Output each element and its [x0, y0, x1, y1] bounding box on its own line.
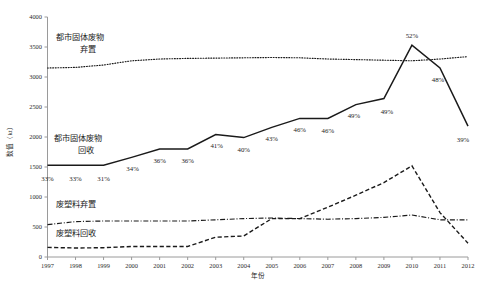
- x-axis-ticks: 1997199819992000200120022003200420052006…: [41, 257, 474, 269]
- y-tick-label: 3500: [29, 43, 42, 50]
- y-axis-title: 数值（kt）: [5, 123, 14, 156]
- series-inline-labels: 都市固体废物 弃置 都市固体废物 回收 废塑料弃置 废塑料回收: [54, 32, 104, 238]
- y-tick-label: 3000: [29, 73, 42, 80]
- x-tick-label: 2004: [237, 262, 251, 269]
- recycling-rate-label: 31%: [97, 175, 110, 182]
- y-tick-label: 2500: [29, 103, 42, 110]
- x-tick-label: 2006: [293, 262, 306, 269]
- series-label-msw-dispose-line2: 弃置: [80, 44, 96, 54]
- series-line-plastic-recycle: [48, 166, 469, 248]
- x-tick-label: 2000: [125, 262, 138, 269]
- y-tick-label: 500: [32, 223, 42, 230]
- recycling-rate-label: 36%: [153, 157, 166, 164]
- y-tick-label: 2000: [29, 133, 42, 140]
- x-tick-label: 2002: [181, 262, 194, 269]
- x-tick-label: 2005: [265, 262, 278, 269]
- x-tick-label: 1997: [41, 262, 55, 269]
- series-line-plastic-dispose: [48, 215, 469, 225]
- x-tick-label: 2008: [349, 262, 362, 269]
- recycling-rate-label: 49%: [381, 108, 394, 115]
- series-label-msw-recycle-line1: 都市固体废物: [54, 133, 102, 143]
- chart-axes: [48, 17, 469, 257]
- recycling-rate-label: 46%: [322, 127, 335, 134]
- x-tick-label: 2003: [209, 262, 222, 269]
- y-tick-label: 1000: [29, 193, 42, 200]
- x-tick-label: 2001: [153, 262, 166, 269]
- series-label-plastic-recycle: 废塑料回收: [56, 228, 96, 238]
- recycling-rate-label: 48%: [432, 76, 445, 83]
- recycling-rate-labels: 33%33%31%34%36%36%41%40%43%46%46%49%49%5…: [41, 32, 469, 182]
- x-tick-label: 2009: [378, 262, 391, 269]
- series-line-msw-recycle: [48, 45, 469, 165]
- recycling-rate-label: 41%: [210, 142, 223, 149]
- recycling-rate-label: 36%: [181, 157, 194, 164]
- recycling-rate-label: 33%: [69, 175, 82, 182]
- chart-container: 05001000150020002500300035004000 1997199…: [0, 0, 480, 292]
- y-tick-label: 0: [39, 253, 42, 260]
- y-tick-label: 1500: [29, 163, 42, 170]
- recycling-rate-label: 49%: [348, 112, 361, 119]
- x-tick-label: 2010: [406, 262, 419, 269]
- y-axis-ticks: 05001000150020002500300035004000: [29, 13, 47, 260]
- series-label-msw-dispose-line1: 都市固体废物: [56, 32, 104, 42]
- x-tick-label: 1998: [69, 262, 82, 269]
- recycling-rate-label: 52%: [406, 32, 419, 39]
- recycling-rate-label: 40%: [237, 146, 250, 153]
- x-tick-label: 1999: [97, 262, 110, 269]
- recycling-rate-label: 34%: [126, 165, 139, 172]
- x-tick-label: 2012: [462, 262, 475, 269]
- y-tick-label: 4000: [29, 13, 42, 20]
- series-label-plastic-dispose: 废塑料弃置: [56, 199, 96, 209]
- x-axis-title: 年份: [251, 271, 265, 280]
- line-chart: 05001000150020002500300035004000 1997199…: [0, 0, 480, 292]
- x-tick-label: 2011: [434, 262, 447, 269]
- x-tick-label: 2007: [321, 262, 335, 269]
- recycling-rate-label: 33%: [41, 175, 54, 182]
- recycling-rate-label: 46%: [294, 126, 307, 133]
- series-label-msw-recycle-line2: 回收: [78, 145, 94, 155]
- recycling-rate-label: 43%: [266, 135, 279, 142]
- recycling-rate-label: 39%: [457, 136, 470, 143]
- chart-series: [48, 45, 469, 248]
